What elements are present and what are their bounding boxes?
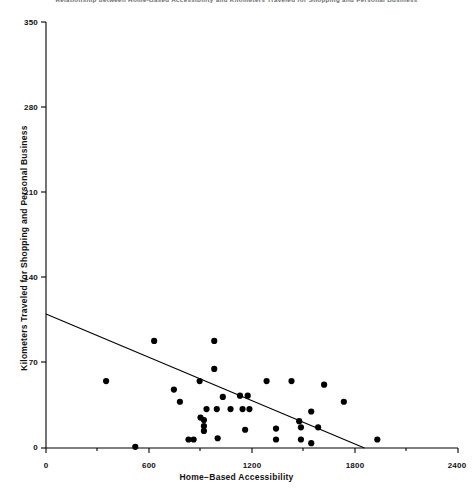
- data-point: [191, 436, 197, 442]
- data-point: [171, 386, 177, 392]
- data-point: [201, 417, 207, 423]
- data-point: [321, 382, 327, 388]
- data-point: [220, 394, 226, 400]
- data-point: [242, 427, 248, 433]
- data-point: [132, 444, 138, 450]
- data-point: [374, 436, 380, 442]
- data-point: [103, 378, 109, 384]
- data-point: [211, 366, 217, 372]
- data-point: [273, 425, 279, 431]
- data-point: [215, 435, 221, 441]
- data-point: [298, 424, 304, 430]
- data-points: [103, 338, 380, 450]
- data-point: [239, 406, 245, 412]
- data-point: [288, 378, 294, 384]
- y-axis-ticks: [41, 22, 46, 448]
- x-axis-title: Home−Based Accessibility: [0, 472, 473, 482]
- data-point: [246, 406, 252, 412]
- scatter-plot-figure: Relationship between Home-Based Accessib…: [0, 0, 473, 496]
- data-point: [296, 418, 302, 424]
- data-point: [308, 408, 314, 414]
- data-point: [273, 436, 279, 442]
- data-point: [211, 338, 217, 344]
- data-point: [197, 378, 203, 384]
- data-point: [263, 378, 269, 384]
- axes: [46, 22, 458, 448]
- y-axis-title: Kilometers Traveled for Shopping and Per…: [16, 0, 32, 496]
- data-point: [151, 338, 157, 344]
- data-point: [315, 424, 321, 430]
- data-point: [298, 436, 304, 442]
- data-point: [308, 440, 314, 446]
- data-point: [341, 399, 347, 405]
- data-point: [201, 428, 207, 434]
- data-point: [227, 406, 233, 412]
- data-point: [245, 393, 251, 399]
- data-point: [177, 399, 183, 405]
- x-axis-ticks: [46, 448, 458, 453]
- data-point: [203, 406, 209, 412]
- plot-area: [0, 0, 473, 496]
- data-point: [214, 406, 220, 412]
- data-point: [237, 393, 243, 399]
